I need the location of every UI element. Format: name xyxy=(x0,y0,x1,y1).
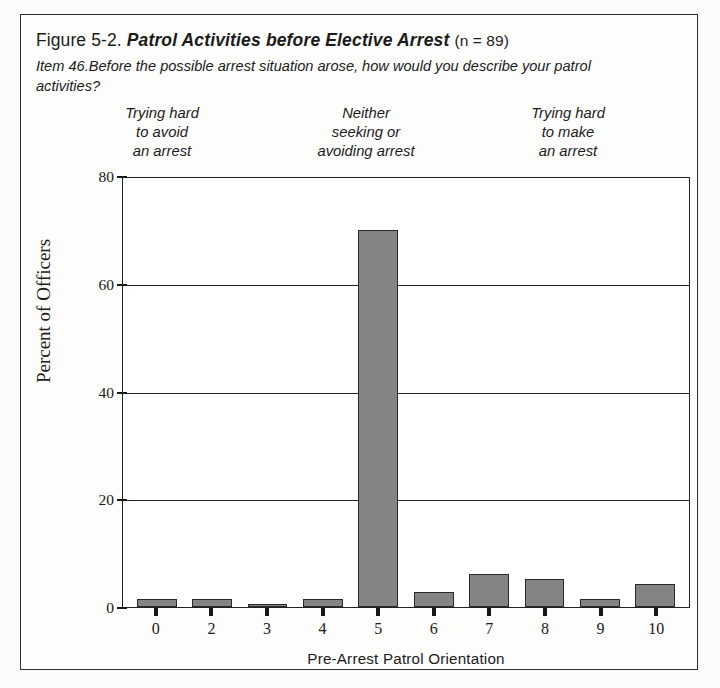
x-axis-tick-labels: 02345678910 xyxy=(122,620,690,638)
bar-slot xyxy=(628,178,683,607)
bar-slot xyxy=(517,178,572,607)
x-tick-label-0: 0 xyxy=(128,620,184,638)
y-tick-label-40: 40 xyxy=(80,384,114,402)
x-tick-mark-6 xyxy=(432,608,436,616)
x-tick-mark-0 xyxy=(154,608,158,616)
x-tick-slot xyxy=(184,608,240,609)
bar-slot xyxy=(406,178,461,607)
x-tick-slot xyxy=(573,608,629,609)
x-tick-label-7: 7 xyxy=(462,620,518,638)
x-tick-slot xyxy=(462,608,518,609)
x-tick-mark-8 xyxy=(543,608,547,616)
y-tick-label-80: 80 xyxy=(80,168,114,186)
bar-7[interactable] xyxy=(469,574,509,607)
x-tick-slot xyxy=(128,608,184,609)
x-tick-mark-2 xyxy=(209,608,213,616)
bar-slot xyxy=(295,178,350,607)
y-tick-label-20: 20 xyxy=(80,491,114,509)
x-tick-slot xyxy=(406,608,462,609)
figure-page: Figure 5-2. Patrol Activities before Ele… xyxy=(0,0,720,688)
y-axis-tick-labels: 020406080 xyxy=(74,177,114,608)
bar-6[interactable] xyxy=(414,592,454,607)
y-tick-label-60: 60 xyxy=(80,276,114,294)
bar-3[interactable] xyxy=(248,604,288,607)
y-tick-mark-80 xyxy=(117,176,127,178)
x-tick-slot xyxy=(517,608,573,609)
x-axis-title: Pre-Arrest Patrol Orientation xyxy=(122,650,690,667)
x-tick-mark-10 xyxy=(654,608,658,616)
y-tick-mark-40 xyxy=(117,392,127,394)
x-tick-slot xyxy=(239,608,295,609)
y-axis-title: Percent of Officers xyxy=(33,201,55,421)
bar-5[interactable] xyxy=(358,230,398,607)
x-tick-slot xyxy=(628,608,684,609)
bar-slot xyxy=(351,178,406,607)
x-tick-slot xyxy=(350,608,406,609)
bar-chart: 020406080 Percent of Officers 0234567891… xyxy=(0,0,720,688)
bar-slot xyxy=(184,178,239,607)
bar-series xyxy=(123,178,689,607)
bar-slot xyxy=(129,178,184,607)
bar-10[interactable] xyxy=(635,584,675,607)
y-tick-label-0: 0 xyxy=(80,599,114,617)
x-tick-mark-4 xyxy=(321,608,325,616)
bar-4[interactable] xyxy=(303,599,343,607)
x-axis-ticks xyxy=(122,608,690,609)
bar-slot xyxy=(240,178,295,607)
bar-0[interactable] xyxy=(137,599,177,607)
plot-frame xyxy=(122,177,690,608)
x-tick-label-3: 3 xyxy=(239,620,295,638)
x-tick-label-4: 4 xyxy=(295,620,351,638)
x-tick-mark-3 xyxy=(265,608,269,616)
y-tick-mark-20 xyxy=(117,499,127,501)
y-tick-mark-60 xyxy=(117,284,127,286)
bar-8[interactable] xyxy=(525,579,565,607)
bar-2[interactable] xyxy=(192,599,232,607)
x-tick-label-9: 9 xyxy=(573,620,629,638)
x-tick-mark-9 xyxy=(599,608,603,616)
x-tick-label-6: 6 xyxy=(406,620,462,638)
x-tick-slot xyxy=(295,608,351,609)
bar-slot xyxy=(572,178,627,607)
x-tick-label-10: 10 xyxy=(628,620,684,638)
x-tick-mark-7 xyxy=(487,608,491,616)
y-axis-ticks xyxy=(122,177,123,608)
x-tick-label-5: 5 xyxy=(350,620,406,638)
bar-9[interactable] xyxy=(580,599,620,607)
x-tick-label-8: 8 xyxy=(517,620,573,638)
bar-slot xyxy=(461,178,516,607)
plot-inner xyxy=(123,178,689,607)
x-tick-mark-5 xyxy=(376,608,380,616)
x-tick-label-2: 2 xyxy=(184,620,240,638)
